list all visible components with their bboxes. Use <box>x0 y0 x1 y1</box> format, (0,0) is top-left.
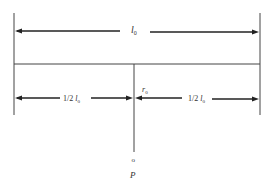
point-label: P <box>129 170 136 180</box>
point-marker: o <box>132 156 136 164</box>
left-half-right-arrowhead-icon <box>126 96 133 101</box>
radius-label: r0 <box>142 85 148 95</box>
right-arrowhead-icon <box>252 30 259 35</box>
total-length-label: l0 <box>131 24 137 36</box>
right-half-left-arrowhead-icon <box>135 96 142 101</box>
left-half-length-label: 1/2 l0 <box>63 94 80 104</box>
left-arrowhead-icon <box>15 29 22 34</box>
right-half-length-dimension: 1/2 l0 <box>135 94 259 104</box>
left-half-length-dimension: 1/2 l0 <box>15 94 133 104</box>
left-half-left-arrowhead-icon <box>15 96 22 101</box>
right-half-right-arrowhead-icon <box>252 97 259 102</box>
right-half-length-label: 1/2 l0 <box>188 94 205 104</box>
total-length-dimension: l0 <box>15 24 259 36</box>
line-source-diagram: l0 1/2 l0 1/2 l0 r0 o P <box>0 0 270 187</box>
